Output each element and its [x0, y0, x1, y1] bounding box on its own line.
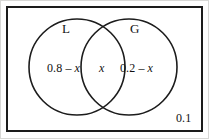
venn-diagram-figure: L G 0.8 – x x 0.2 – x 0.1 [0, 0, 209, 139]
set-label-g: G [130, 22, 140, 35]
set-label-l: L [62, 22, 70, 35]
region-label-intersection: x [99, 62, 104, 74]
region-label-left-only: 0.8 – x [47, 62, 80, 74]
region-label-right-only: 0.2 – x [120, 62, 153, 74]
region-label-outside-both: 0.1 [176, 112, 191, 124]
